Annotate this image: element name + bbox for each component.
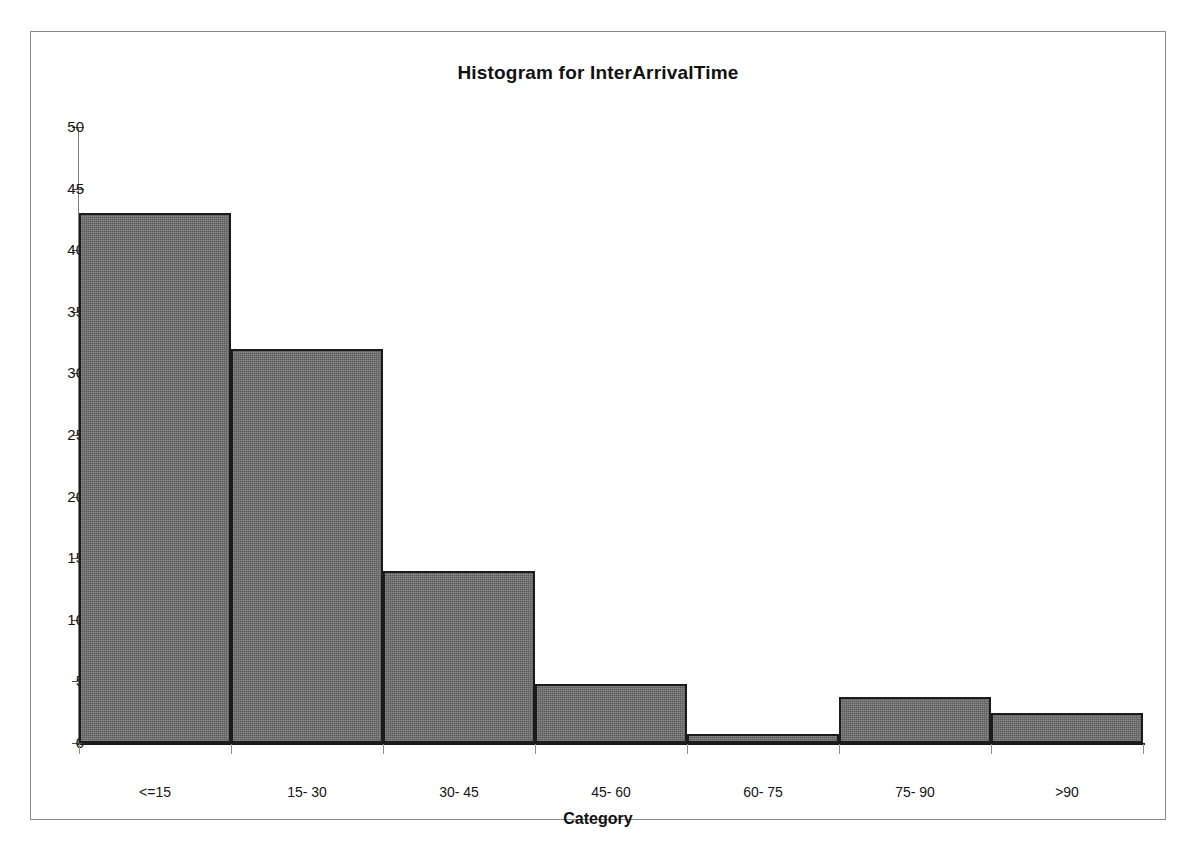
- histogram-bar: [231, 349, 383, 743]
- x-tick-mark: [687, 744, 688, 754]
- plot-area: [79, 127, 1143, 743]
- x-tick-label: 45- 60: [535, 784, 687, 800]
- x-tick-mark: [991, 744, 992, 754]
- y-tick-group: 45: [31, 189, 84, 190]
- histogram-bar: [991, 713, 1143, 743]
- y-tick-group: 40: [31, 250, 84, 251]
- x-tick-mark: [79, 744, 80, 754]
- x-tick-label: 75- 90: [839, 784, 991, 800]
- histogram-bar: [535, 684, 687, 743]
- chart-title: Histogram for InterArrivalTime: [31, 62, 1165, 84]
- x-tick-mark: [1143, 744, 1144, 754]
- x-axis-line: [77, 743, 1145, 745]
- chart-frame: Histogram for InterArrivalTime 051015202…: [30, 31, 1166, 820]
- x-tick-label: 30- 45: [383, 784, 535, 800]
- x-axis-title: Category: [31, 810, 1165, 828]
- y-tick-group: 25: [31, 435, 84, 436]
- histogram-bar: [79, 213, 231, 743]
- histogram-bar: [839, 697, 991, 743]
- histogram-bar: [687, 734, 839, 743]
- x-tick-mark: [839, 744, 840, 754]
- y-tick-group: 15: [31, 558, 84, 559]
- y-tick-group: 10: [31, 620, 84, 621]
- x-tick-label: 60- 75: [687, 784, 839, 800]
- y-tick-group: 0: [31, 743, 84, 744]
- x-tick-label: <=15: [79, 784, 231, 800]
- x-tick-mark: [231, 744, 232, 754]
- histogram-bar: [383, 571, 535, 743]
- y-tick-group: 50: [31, 127, 84, 128]
- x-tick-label: >90: [991, 784, 1143, 800]
- x-tick-mark: [383, 744, 384, 754]
- x-tick-mark: [535, 744, 536, 754]
- y-tick-group: 35: [31, 312, 84, 313]
- y-tick-group: 30: [31, 373, 84, 374]
- y-tick-group: 5: [31, 681, 84, 682]
- y-tick-group: 20: [31, 497, 84, 498]
- chart-page: Histogram for InterArrivalTime 051015202…: [0, 0, 1198, 848]
- x-tick-label: 15- 30: [231, 784, 383, 800]
